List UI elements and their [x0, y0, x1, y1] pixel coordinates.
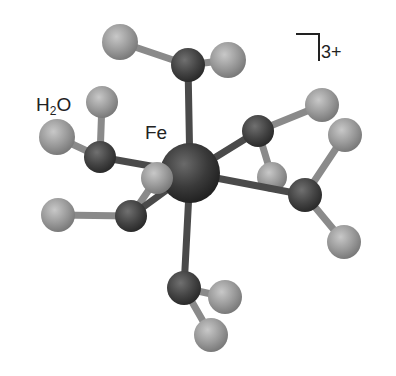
- charge-bracket: [296, 33, 320, 61]
- ligand-label: H2O: [36, 95, 71, 117]
- metal-label: Fe: [145, 123, 167, 142]
- charge-label: 3+: [321, 42, 342, 63]
